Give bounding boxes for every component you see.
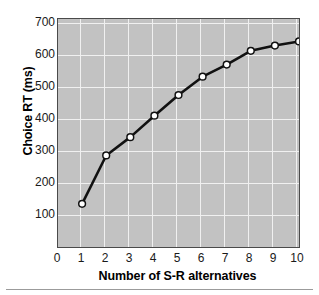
series-line [82,41,299,203]
data-series-choice-rt [58,19,299,247]
data-point-2 [103,152,110,159]
data-point-10 [296,38,299,45]
x-tick-10: 10 [285,252,309,264]
data-point-8 [247,47,254,54]
series-markers [79,38,299,207]
x-tick-1: 1 [69,252,93,264]
y-tick-700: 700 [15,16,55,28]
x-tick-8: 8 [237,252,261,264]
plot-area [57,18,300,248]
x-tick-0: 0 [45,252,69,264]
x-tick-9: 9 [261,252,285,264]
x-tick-6: 6 [189,252,213,264]
data-point-1 [79,200,86,207]
y-tick-600: 600 [15,48,55,60]
figure-bottom-rule [6,289,313,290]
data-point-9 [272,42,279,49]
x-tick-3: 3 [117,252,141,264]
x-tick-7: 7 [213,252,237,264]
data-point-7 [223,61,230,68]
data-point-4 [151,112,158,119]
data-point-3 [127,134,134,141]
x-axis-title: Number of S-R alternatives [40,269,315,283]
data-point-5 [175,92,182,99]
y-tick-400: 400 [15,112,55,124]
y-tick-300: 300 [15,144,55,156]
x-tick-2: 2 [93,252,117,264]
y-tick-500: 500 [15,80,55,92]
choice-rt-chart-figure: Choice RT (ms) 100 200 300 400 500 600 7… [0,0,319,295]
data-point-6 [199,73,206,80]
y-tick-200: 200 [15,176,55,188]
x-tick-5: 5 [165,252,189,264]
x-tick-4: 4 [141,252,165,264]
y-tick-100: 100 [15,208,55,220]
